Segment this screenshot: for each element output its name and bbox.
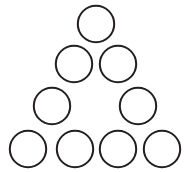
circle-r4-c4 xyxy=(144,131,180,167)
circle-r4-c2 xyxy=(57,131,93,167)
circle-r4-c3 xyxy=(100,131,136,167)
circle-r2-c1 xyxy=(56,46,92,82)
circle-r2-c2 xyxy=(100,46,136,82)
circle-r3-c1 xyxy=(34,88,70,124)
row-1 xyxy=(78,6,114,42)
figure-canvas xyxy=(0,0,190,172)
circle-r3-c2 xyxy=(120,88,156,124)
circle-r1-c1 xyxy=(78,6,114,42)
circle-r4-c1 xyxy=(10,131,46,167)
circle-pattern-svg xyxy=(0,0,190,172)
